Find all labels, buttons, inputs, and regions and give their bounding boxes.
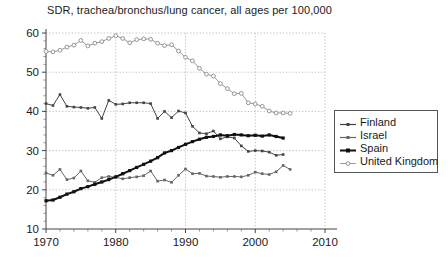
svg-text:2010: 2010 bbox=[312, 236, 338, 248]
svg-text:1990: 1990 bbox=[173, 236, 199, 248]
svg-text:20: 20 bbox=[26, 184, 39, 196]
svg-text:1980: 1980 bbox=[103, 236, 129, 248]
legend-item-israel[interactable]: Israel bbox=[339, 128, 433, 141]
legend-label-israel: Israel bbox=[360, 129, 387, 141]
svg-text:1970: 1970 bbox=[33, 236, 59, 248]
legend-label-spain: Spain bbox=[360, 142, 388, 154]
legend-swatch-finland bbox=[339, 116, 357, 127]
legend-item-finland[interactable]: Finland bbox=[339, 115, 433, 128]
legend-swatch-united-kingdom bbox=[339, 155, 357, 166]
svg-text:50: 50 bbox=[26, 66, 39, 78]
legend-label-finland: Finland bbox=[360, 116, 396, 128]
svg-text:30: 30 bbox=[26, 145, 39, 157]
legend-item-united-kingdom[interactable]: United Kingdom bbox=[339, 154, 433, 167]
svg-text:60: 60 bbox=[26, 27, 39, 39]
legend-label-united-kingdom: United Kingdom bbox=[360, 155, 438, 167]
legend-swatch-israel bbox=[339, 129, 357, 140]
chart-container: SDR, trachea/bronchus/lung cancer, all a… bbox=[0, 0, 448, 268]
series-israel bbox=[45, 164, 292, 183]
legend-swatch-spain bbox=[339, 142, 357, 153]
svg-text:10: 10 bbox=[26, 223, 39, 235]
series-united-kingdom bbox=[44, 34, 292, 115]
svg-text:40: 40 bbox=[26, 105, 39, 117]
chart-legend: Finland Israel Spain bbox=[334, 110, 438, 173]
series-spain bbox=[44, 133, 284, 202]
svg-text:2000: 2000 bbox=[242, 236, 268, 248]
legend-item-spain[interactable]: Spain bbox=[339, 141, 433, 154]
